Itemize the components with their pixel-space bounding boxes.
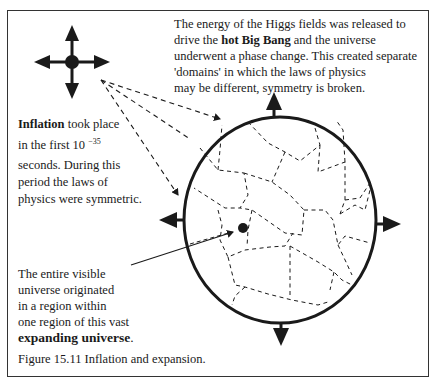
higgs-text-line: drive the hot Big Bang and the universe — [174, 32, 417, 48]
visible-universe-text-line: in a region within — [18, 298, 134, 314]
higgs-description: The energy of the Higgs fields was relea… — [174, 16, 417, 96]
inflation-text-line: in the first 10 −35 — [18, 133, 142, 154]
hot-big-bang-emphasis: hot Big Bang — [221, 33, 290, 47]
inflation-emphasis: Inflation — [18, 117, 65, 131]
visible-universe-text-line: The entire visible — [18, 266, 134, 282]
higgs-text-line: The energy of the Higgs fields was relea… — [174, 16, 417, 32]
inflation-text-line: period the laws of — [18, 174, 142, 191]
visible-universe-text-line: one region of this vast — [18, 314, 134, 330]
higgs-text-line: 'domains' in which the laws of physics — [174, 64, 417, 80]
inflation-text-line: Inflation took place — [18, 116, 142, 133]
visible-universe-text-line: universe originated — [18, 282, 134, 298]
visible-universe-text-line: expanding universe. — [18, 330, 134, 346]
inflation-text-line: physics were symmetric. — [18, 191, 142, 208]
visible-universe-description: The entire visible universe originated i… — [18, 266, 134, 346]
domain-boundaries — [194, 120, 372, 305]
expanding-universe-circle — [184, 117, 376, 323]
visible-universe-pointer — [131, 232, 233, 265]
expansion-arrows-icon — [159, 92, 401, 346]
expanding-universe-emphasis: expanding universe — [18, 330, 130, 345]
inflation-text-line: seconds. During this — [18, 157, 142, 174]
figure-caption: Figure 15.11 Inflation and expansion. — [18, 351, 206, 367]
higgs-text-line: underwent a phase change. This created s… — [174, 48, 417, 64]
four-way-expansion-arrows-icon — [34, 25, 110, 99]
higgs-text-line: may be different, symmetry is broken. — [174, 80, 417, 96]
inflation-description: Inflation took place in the first 10 −35… — [18, 116, 142, 208]
visible-universe-dot-icon — [238, 223, 248, 233]
exponent: −35 — [88, 137, 101, 146]
